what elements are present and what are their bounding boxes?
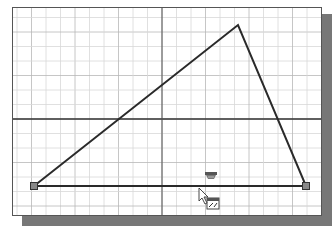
horizontal-constraint-icon[interactable] [205,172,217,179]
line-tool-icon[interactable] [207,198,219,209]
mouse-cursor-icon [199,188,208,204]
endpoint-marker[interactable] [303,183,310,190]
endpoint-marker[interactable] [31,183,38,190]
sketch-layer[interactable] [0,0,332,227]
